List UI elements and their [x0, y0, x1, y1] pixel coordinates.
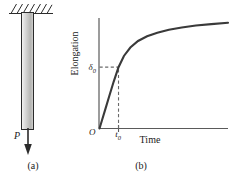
creep-figure: P (a) Elongation Time O δ0 t0 (b): [0, 0, 244, 180]
down-arrow-icon: [20, 128, 36, 156]
caption-panel-a: (a): [0, 160, 66, 171]
t-subscript: 0: [118, 134, 121, 141]
prismatic-bar-icon: [21, 12, 34, 130]
x-tick-label-t0: t0: [108, 129, 128, 141]
panel-b-creep-chart: Elongation Time O δ0 t0 (b): [58, 0, 244, 180]
y-axis-label: Elongation: [69, 14, 80, 94]
y-tick-label-delta0: δ0: [76, 62, 96, 74]
delta-subscript: 0: [93, 67, 96, 74]
caption-panel-b: (b): [108, 160, 174, 171]
creep-curve-plot: [58, 0, 244, 150]
load-label-p: P: [14, 131, 20, 141]
x-axis-label: Time: [120, 134, 180, 145]
origin-label: O: [89, 127, 96, 137]
